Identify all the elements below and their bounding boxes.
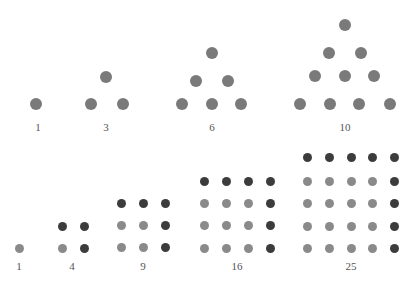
dot xyxy=(294,98,306,110)
dot xyxy=(368,244,377,253)
gnomon-dot xyxy=(325,153,334,162)
gnomon-dot xyxy=(390,244,399,253)
dot xyxy=(368,222,377,231)
gnomon-dot xyxy=(390,199,399,208)
dot xyxy=(85,98,97,110)
gnomon-dot xyxy=(80,244,89,253)
gnomon-dot xyxy=(161,243,170,252)
dot xyxy=(325,222,334,231)
dot xyxy=(368,177,377,186)
number-label: 25 xyxy=(346,260,357,272)
dot xyxy=(222,75,234,87)
gnomon-dot xyxy=(161,199,170,208)
dot xyxy=(339,70,351,82)
number-label: 4 xyxy=(69,260,75,272)
dot xyxy=(139,243,148,252)
gnomon-dot xyxy=(303,153,312,162)
figurate-numbers-diagram: 13610 1491625 xyxy=(0,0,412,288)
dot xyxy=(325,199,334,208)
dot xyxy=(190,75,202,87)
gnomon-dot xyxy=(266,177,275,186)
dot xyxy=(58,244,67,253)
number-label: 16 xyxy=(232,260,243,272)
gnomon-dot xyxy=(266,244,275,253)
dot xyxy=(244,221,253,230)
dot xyxy=(303,222,312,231)
gnomon-dot xyxy=(139,199,148,208)
gnomon-dot xyxy=(200,177,209,186)
dot xyxy=(206,98,218,110)
dot xyxy=(222,199,231,208)
dot xyxy=(139,221,148,230)
gnomon-dot xyxy=(390,153,399,162)
gnomon-dot xyxy=(266,199,275,208)
number-label: 1 xyxy=(16,260,22,272)
number-label: 10 xyxy=(340,121,351,133)
dot xyxy=(368,70,380,82)
dot xyxy=(200,221,209,230)
gnomon-dot xyxy=(117,199,126,208)
dot xyxy=(309,70,321,82)
dot xyxy=(15,244,24,253)
number-label: 1 xyxy=(35,121,41,133)
dot xyxy=(323,47,335,59)
dot xyxy=(117,243,126,252)
gnomon-dot xyxy=(390,177,399,186)
dot xyxy=(325,244,334,253)
dot xyxy=(100,71,112,83)
dot xyxy=(176,98,188,110)
dot xyxy=(222,244,231,253)
dot xyxy=(200,244,209,253)
number-label: 3 xyxy=(103,121,109,133)
dot xyxy=(324,98,336,110)
number-label: 6 xyxy=(209,121,215,133)
dot xyxy=(117,98,129,110)
gnomon-dot xyxy=(222,177,231,186)
dot xyxy=(244,199,253,208)
dot xyxy=(347,244,356,253)
dot xyxy=(200,199,209,208)
dot xyxy=(117,221,126,230)
number-label: 9 xyxy=(140,260,146,272)
dot xyxy=(303,199,312,208)
dot xyxy=(347,222,356,231)
dot xyxy=(303,244,312,253)
dot xyxy=(244,244,253,253)
gnomon-dot xyxy=(80,222,89,231)
dot xyxy=(303,177,312,186)
gnomon-dot xyxy=(58,222,67,231)
gnomon-dot xyxy=(390,222,399,231)
gnomon-dot xyxy=(368,153,377,162)
gnomon-dot xyxy=(161,221,170,230)
dot xyxy=(339,19,351,31)
dot xyxy=(222,221,231,230)
dot xyxy=(325,177,334,186)
dot xyxy=(347,199,356,208)
gnomon-dot xyxy=(244,177,253,186)
dot xyxy=(368,199,377,208)
dot xyxy=(235,98,247,110)
gnomon-dot xyxy=(347,153,356,162)
gnomon-dot xyxy=(266,221,275,230)
dot xyxy=(384,98,396,110)
dot xyxy=(353,98,365,110)
dot xyxy=(30,98,42,110)
dot xyxy=(347,177,356,186)
dot xyxy=(206,47,218,59)
dot xyxy=(355,47,367,59)
